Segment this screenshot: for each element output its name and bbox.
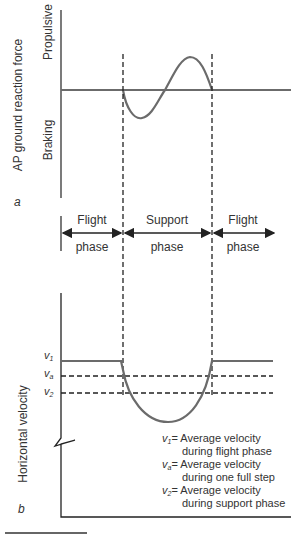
- phase-1-top: Flight: [77, 213, 107, 227]
- velocity-legend: v1= Average velocity during flight phase…: [162, 432, 285, 509]
- legend-v2-line1: v2= Average velocity: [162, 484, 261, 497]
- tick-v1: v1: [44, 349, 54, 362]
- propulsive-label: Propulsive: [41, 4, 55, 60]
- tick-v2: v2: [44, 385, 54, 398]
- legend-va-line1: va= Average velocity: [162, 458, 261, 471]
- phase-row: Flight phase Support phase Flight phase: [61, 213, 274, 254]
- panel-b-letter: b: [18, 502, 25, 516]
- braking-label: Braking: [41, 120, 55, 161]
- force-curve: [123, 57, 212, 118]
- panel-b: Horizontal velocity v1 va v2 v1= Average…: [16, 293, 291, 517]
- velocity-curve: [61, 361, 273, 422]
- force-axis-label: AP ground reaction force: [11, 38, 25, 171]
- phase-3-bottom: phase: [227, 240, 260, 254]
- legend-v2-line2: during support phase: [182, 497, 285, 509]
- phase-3-top: Flight: [228, 213, 258, 227]
- legend-va-line2: during one full step: [182, 471, 275, 483]
- phase-2-top: Support: [146, 213, 189, 227]
- phase-2-bottom: phase: [151, 240, 184, 254]
- panel-a: AP ground reaction force Propulsive Brak…: [11, 4, 291, 209]
- panel-a-letter: a: [14, 195, 21, 209]
- phase-1-bottom: phase: [76, 240, 109, 254]
- velocity-axis-label: Horizontal velocity: [16, 385, 30, 482]
- tick-va: va: [44, 367, 54, 380]
- running-phase-diagram: AP ground reaction force Propulsive Brak…: [0, 0, 300, 538]
- legend-v1-line2: during flight phase: [182, 445, 272, 457]
- legend-v1-line1: v1= Average velocity: [162, 432, 261, 445]
